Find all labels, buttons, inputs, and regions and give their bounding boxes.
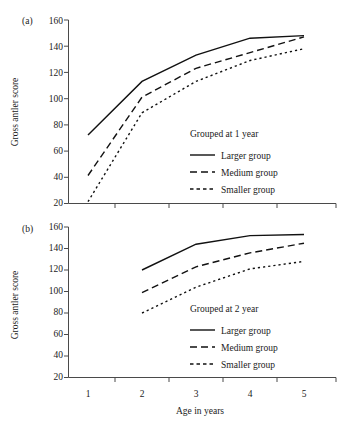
- panel-a-y-ticks: [64, 20, 69, 204]
- chart-svg: (a) Gross antler score 20 40 60 80 100 1…: [0, 0, 354, 435]
- panel-a-y-axis-title: Gross antler score: [10, 78, 20, 147]
- panel-b-axes: [69, 227, 337, 378]
- panel-a-axes: [69, 20, 337, 204]
- panel-b-ytick-80: 80: [54, 307, 64, 317]
- panel-a-ytick-140: 140: [49, 42, 64, 52]
- panel-b-xtick-5: 5: [302, 389, 307, 399]
- panel-a-legend-label-medium: Medium group: [221, 168, 278, 178]
- panel-b: (b) Gross antler score 20 40 60 80 100 1…: [10, 222, 336, 416]
- panel-b-ytick-40: 40: [54, 350, 64, 360]
- panel-b-y-ticks: [64, 227, 69, 378]
- panel-a-x-ticks: [115, 204, 336, 209]
- panel-b-legend: Grouped at 2 year Larger group Medium gr…: [190, 304, 278, 370]
- panel-a-legend-title: Grouped at 1 year: [190, 129, 259, 139]
- panel-b-ytick-20: 20: [54, 372, 64, 382]
- panel-b-x-ticks: [115, 378, 336, 383]
- panel-b-xtick-4: 4: [248, 389, 253, 399]
- panel-b-xtick-1: 1: [86, 389, 91, 399]
- panel-a-legend-label-smaller: Smaller group: [221, 185, 275, 195]
- panel-a-legend-label-larger: Larger group: [221, 151, 271, 161]
- panel-a-series-larger-group: [88, 36, 304, 135]
- panel-b-xtick-2: 2: [140, 389, 145, 399]
- panel-a-ytick-40: 40: [54, 172, 64, 182]
- panel-b-series-medium-group: [142, 243, 304, 292]
- panel-b-ytick-100: 100: [49, 286, 64, 296]
- panel-b-legend-title: Grouped at 2 year: [190, 304, 259, 314]
- panel-a-ytick-160: 160: [49, 16, 64, 26]
- panel-a-series-smaller-group: [88, 49, 304, 202]
- panel-b-xtick-3: 3: [194, 389, 199, 399]
- panel-b-y-axis-title: Gross antler score: [10, 271, 20, 340]
- panel-b-ytick-160: 160: [49, 222, 64, 232]
- panel-a-ytick-120: 120: [49, 68, 64, 78]
- panel-a-ytick-80: 80: [54, 120, 64, 130]
- panel-a-y-tick-labels: 20 40 60 80 100 120 140 160: [49, 16, 64, 208]
- panel-b-ytick-120: 120: [49, 264, 64, 274]
- panel-b-ytick-140: 140: [49, 243, 64, 253]
- panel-b-label: (b): [22, 224, 33, 235]
- panel-b-ytick-60: 60: [54, 329, 64, 339]
- panel-a-legend: Grouped at 1 year Larger group Medium gr…: [190, 129, 278, 195]
- panel-a-ytick-60: 60: [54, 146, 64, 156]
- panel-b-x-tick-labels: 1 2 3 4 5: [86, 389, 307, 399]
- panel-a: (a) Gross antler score 20 40 60 80 100 1…: [10, 16, 336, 208]
- panel-a-ytick-100: 100: [49, 94, 64, 104]
- panel-b-y-tick-labels: 20 40 60 80 100 120 140 160: [49, 222, 64, 382]
- panel-a-ytick-20: 20: [54, 198, 64, 208]
- x-axis-title: Age in years: [176, 406, 224, 416]
- panel-a-label: (a): [22, 16, 33, 27]
- panel-b-legend-label-medium: Medium group: [221, 343, 278, 353]
- antler-growth-figure: (a) Gross antler score 20 40 60 80 100 1…: [0, 0, 354, 435]
- panel-b-legend-label-smaller: Smaller group: [221, 360, 275, 370]
- panel-b-legend-label-larger: Larger group: [221, 326, 271, 336]
